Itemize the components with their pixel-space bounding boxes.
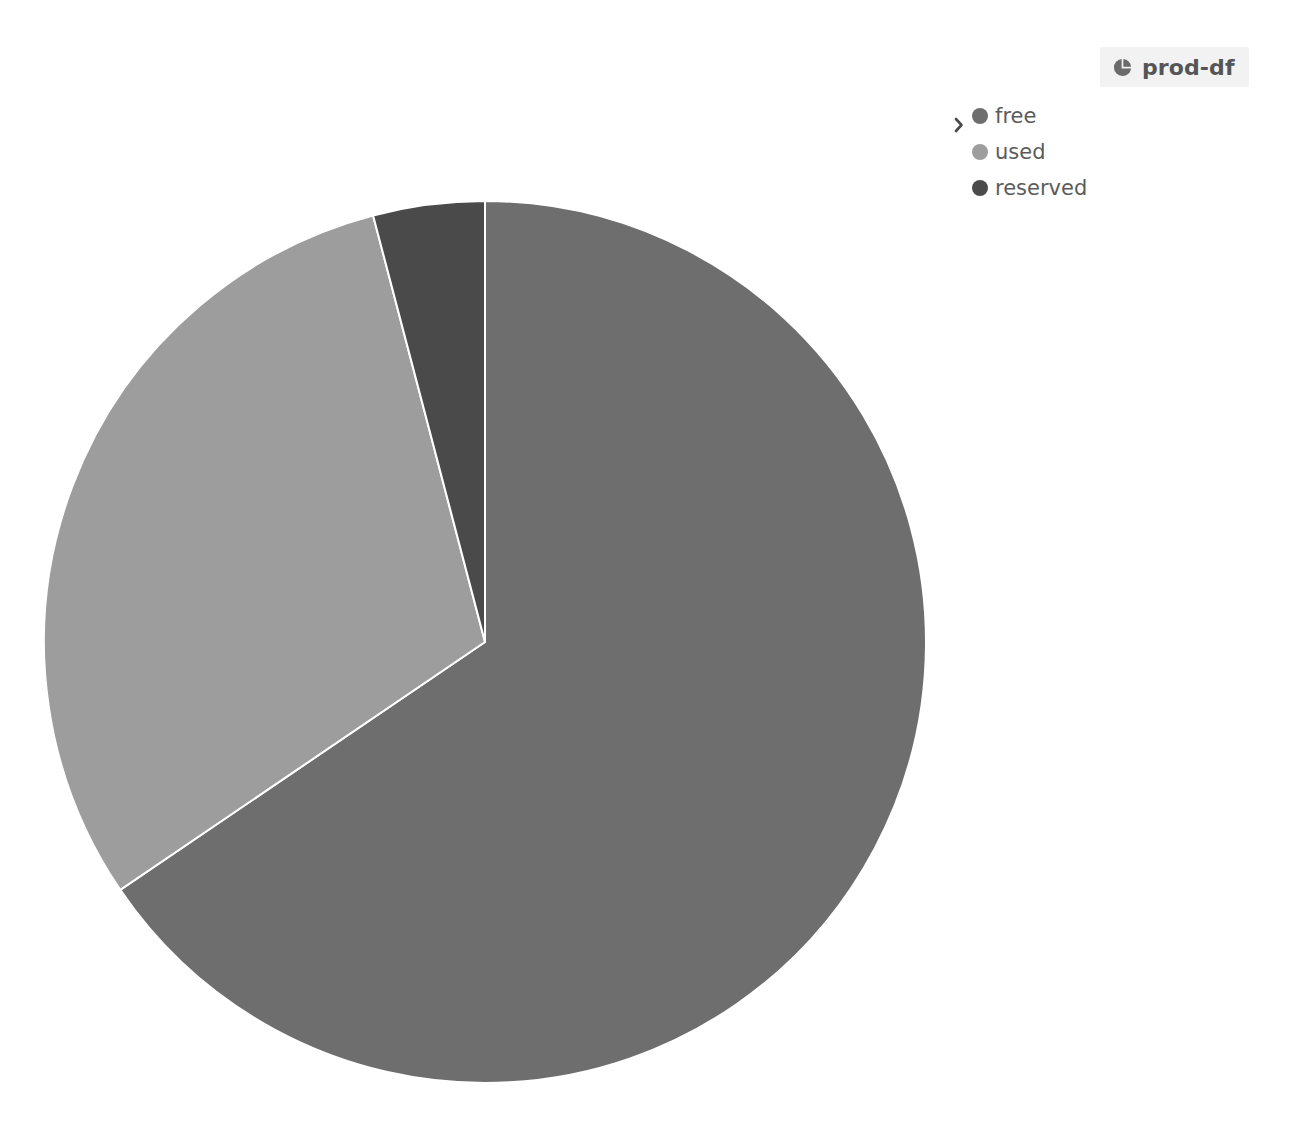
legend-item-reserved[interactable]: reserved bbox=[972, 175, 1087, 201]
scan-artifact bbox=[1130, 1030, 1134, 1045]
pie-slice-group bbox=[44, 201, 926, 1083]
legend-label-reserved: reserved bbox=[995, 178, 1087, 199]
scan-artifact bbox=[1155, 735, 1159, 750]
pie-chart-icon bbox=[1112, 57, 1133, 78]
legend-item-free[interactable]: free bbox=[972, 103, 1087, 129]
legend-swatch-reserved bbox=[972, 180, 988, 196]
legend-item-used[interactable]: used bbox=[972, 139, 1087, 165]
legend-swatch-free bbox=[972, 108, 988, 124]
chart-title-badge: prod-df bbox=[1100, 47, 1249, 87]
legend-label-used: used bbox=[995, 142, 1046, 163]
pie-chart-svg bbox=[44, 201, 926, 1083]
legend-item-list: free used reserved bbox=[972, 103, 1087, 201]
pie-chart bbox=[44, 201, 926, 1083]
chart-title: prod-df bbox=[1142, 55, 1235, 80]
chart-legend: free used reserved bbox=[950, 103, 1087, 201]
legend-swatch-used bbox=[972, 144, 988, 160]
chevron-right-icon[interactable] bbox=[950, 116, 968, 134]
legend-label-free: free bbox=[995, 106, 1036, 127]
